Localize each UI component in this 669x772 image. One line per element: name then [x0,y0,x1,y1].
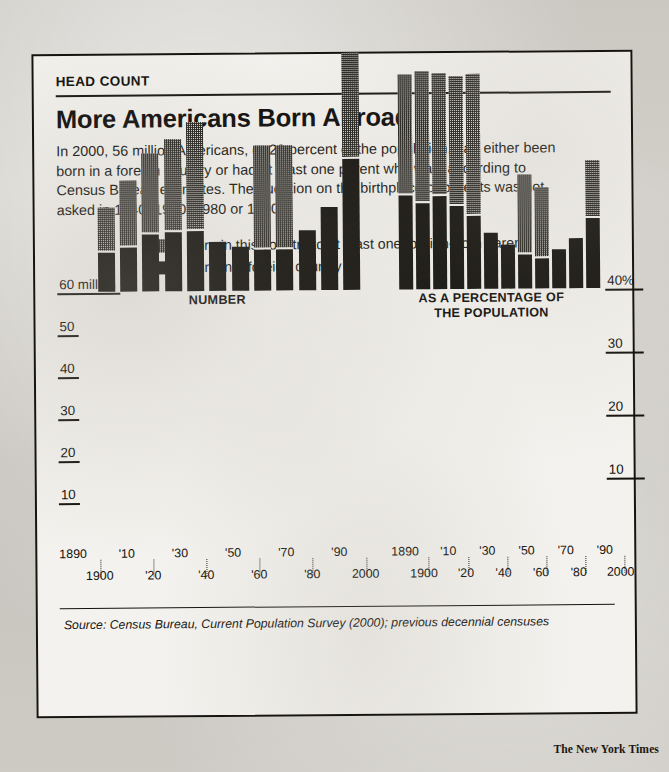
x-tick-label-20: '20 [140,568,167,582]
bar-segment-foreign-born [232,247,249,290]
y-tick-percentage-20: 20 [606,398,644,416]
bar-stack [448,76,464,289]
bar-number-60 [250,38,274,290]
bar-segment-native-born [342,52,360,157]
bar-stack [275,145,293,290]
bar-stack [517,175,532,289]
bar-number-70 [272,38,296,290]
bar-number-80 [294,38,318,290]
bar-stack [97,208,115,292]
bar-segment-foreign-born [551,249,565,288]
x-tick-spacer [391,566,410,580]
x-tick-label-20: '20 [457,566,476,580]
x-tick-spacer [458,544,478,558]
y-tick-label: 30 [58,403,79,421]
y-tick-number-20: 20 [58,445,79,463]
x-tick-spacer [497,543,517,557]
bar-segment-foreign-born [517,254,531,288]
bar-stack [298,231,315,290]
x-tick-label-1900: 1900 [410,566,438,580]
x-tick-spacer [299,545,326,559]
y-tick-label: 30 [606,335,644,353]
bar-stack [232,247,249,290]
bar-percentage-30 [463,37,482,289]
bar-segment-native-born [448,76,463,204]
x-tick-spacer [419,544,439,558]
x-axis-number: 1890'10'30'50'70'90 1900'20'40'60'802000 [59,541,379,590]
bar-segment-foreign-born [142,234,159,291]
y-tick-label: 40 [58,361,79,379]
y-tick-number-30: 30 [58,403,79,421]
x-tick-label-1900: 1900 [86,568,114,582]
bar-number-1900 [116,39,140,291]
bar-segment-native-born [517,175,532,253]
bar-segment-foreign-born [535,258,549,288]
bar-segment-foreign-born [449,206,464,289]
x-tick-label-40: '40 [193,568,220,582]
bar-stack [397,75,413,289]
bar-stack [342,52,361,289]
x-tick-label-10: '10 [438,544,458,558]
bar-stack [209,242,226,291]
bar-stack [431,73,447,289]
footer-rule [60,604,615,610]
x-tick-label-2000: 2000 [352,566,380,580]
bar-stack [568,238,582,288]
bar-segment-native-born [141,153,159,233]
x-tick-label-70: '70 [556,543,576,557]
x-tick-label-70: '70 [273,545,300,559]
bar-group-number [93,37,363,291]
bar-segment-native-born [97,208,114,251]
x-tick-spacer [475,565,494,579]
x-tick-spacer [114,568,141,582]
bar-segment-native-born [585,160,599,216]
x-tick-label-1890: 1890 [59,547,87,561]
source-note: Source: Census Bureau, Current Populatio… [64,614,615,632]
bar-percentage-40 [480,36,499,288]
x-tick-spacer [575,543,595,557]
bar-percentage-80 [548,36,567,288]
bar-number-1890 [93,39,117,291]
x-tick-label-30: '30 [478,543,498,557]
bar-number-40 [205,39,229,291]
x-tick-spacer [219,567,246,581]
y-tick-label: 50 [57,319,78,337]
y-tick-percentage-10: 10 [607,461,645,479]
y-tick-number-50: 50 [57,319,78,337]
x-tick-label-30: '30 [167,546,194,560]
plot-percentage [395,36,601,290]
publication-credit: The New York Times [553,743,659,756]
bar-segment-native-born [253,145,271,247]
x-tick-label-40: '40 [494,565,513,579]
bar-stack [500,245,514,289]
bar-stack [585,160,600,288]
bar-percentage-70 [531,36,550,288]
bar-stack [186,122,204,290]
bar-percentage-90 [565,36,584,288]
x-tick-spacer [59,569,86,583]
bar-segment-foreign-born [568,238,582,288]
bar-segment-native-born [275,145,293,248]
x-tick-spacer [536,543,556,557]
y-tick-number-10: 10 [59,487,80,505]
bar-stack [465,74,481,288]
y-tick-label: 20 [606,398,644,416]
y-tick-label: 10 [59,487,80,505]
bar-percentage-1890 [395,37,414,289]
x-tick-spacer [140,546,167,560]
bar-segment-foreign-born [254,249,271,290]
x-tick-label-60: '60 [246,567,273,581]
chart-panel-number: NUMBER 102030405060 million 1890'10'30'5… [57,289,377,292]
bar-number-90 [317,38,341,290]
bar-segment-foreign-born [500,245,514,289]
bar-segment-foreign-born [483,233,497,289]
x-tick-label-50: '50 [517,543,537,557]
bar-group-percentage [395,36,601,290]
y-tick-number-40: 40 [58,361,79,379]
y-tick-label: 40% [605,272,643,290]
x-tick-spacer [615,542,635,556]
y-tick-percentage-30: 30 [606,335,644,353]
bar-segment-foreign-born [415,203,430,289]
bar-segment-native-born [164,139,182,231]
bar-percentage-10 [429,37,448,289]
